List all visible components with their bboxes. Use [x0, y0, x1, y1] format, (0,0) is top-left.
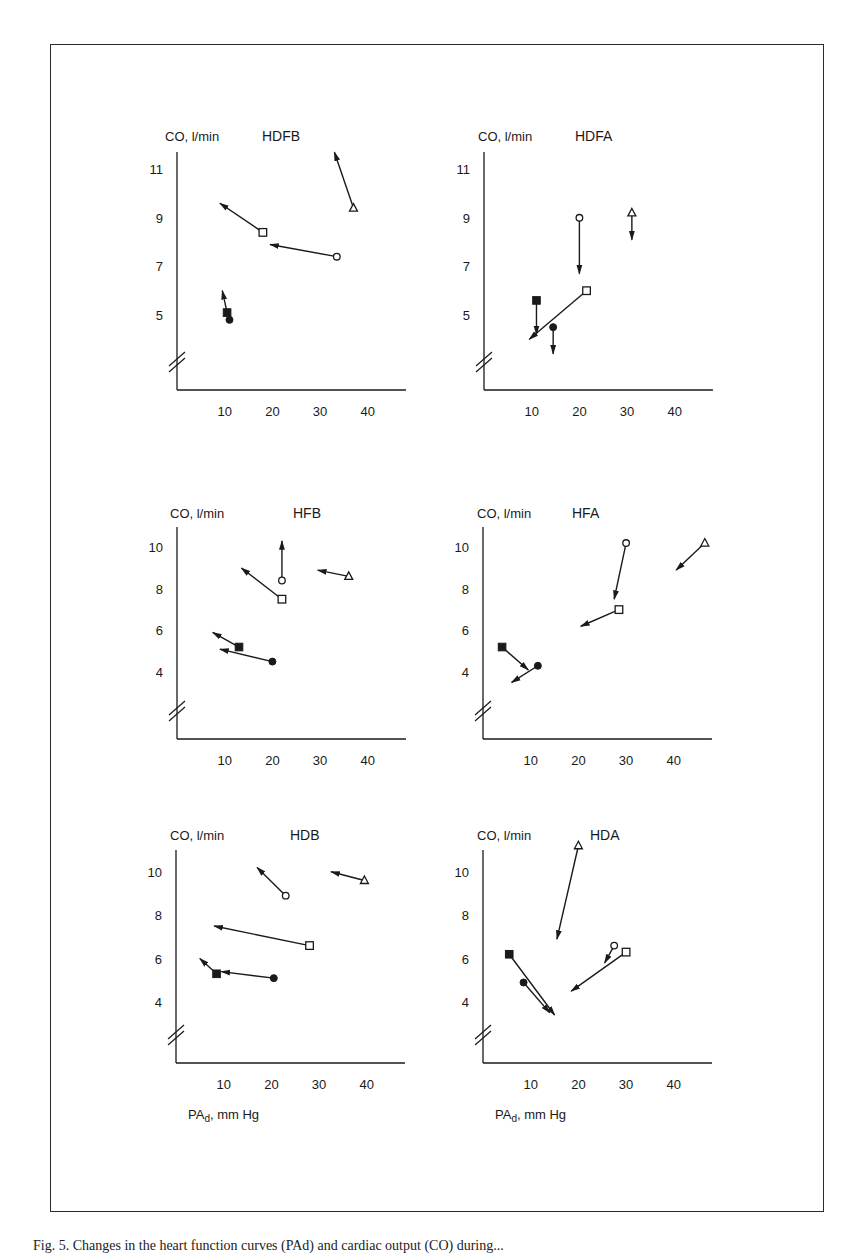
change-arrow: [512, 666, 538, 683]
filled-square-marker: [533, 297, 541, 305]
open-square-marker: [583, 287, 591, 295]
open-triangle-marker: [701, 539, 709, 547]
x-tick-label: 20: [265, 404, 279, 419]
panel-title: HDB: [290, 827, 320, 843]
panel-title: HFA: [572, 505, 600, 521]
open-triangle-marker: [574, 841, 582, 849]
y-tick-label: 11: [457, 162, 471, 177]
change-arrow: [241, 568, 282, 599]
change-arrow: [318, 570, 349, 576]
y-tick-label: 4: [462, 995, 469, 1010]
panel-title: HFB: [293, 505, 321, 521]
x-tick-label: 30: [313, 753, 327, 768]
y-axis-label: CO, l/min: [477, 828, 531, 843]
y-tick-label: 10: [148, 865, 162, 880]
x-tick-label: 10: [523, 1077, 537, 1092]
panel-hdfa: CO, l/minHDFA5791110203040: [457, 128, 713, 419]
panel-hdb: CO, l/minHDB4681010203040PAd, mm Hg: [148, 827, 405, 1124]
y-tick-label: 6: [155, 952, 162, 967]
panel-hda: CO, l/minHDA4681010203040PAd, mm Hg: [455, 827, 712, 1124]
x-tick-label: 20: [572, 404, 586, 419]
change-arrow: [334, 152, 353, 208]
change-arrow: [571, 952, 626, 991]
filled-circle-marker: [226, 316, 233, 323]
y-tick-label: 5: [463, 308, 470, 323]
change-arrow: [524, 982, 550, 1012]
y-tick-label: 4: [462, 665, 469, 680]
change-arrow: [331, 872, 364, 881]
open-circle-marker: [282, 892, 289, 899]
x-tick-label: 10: [523, 753, 537, 768]
y-tick-label: 8: [155, 908, 162, 923]
x-tick-label: 40: [361, 404, 375, 419]
x-tick-label: 20: [265, 753, 279, 768]
open-circle-marker: [623, 540, 630, 547]
y-tick-label: 10: [149, 540, 163, 555]
x-tick-label: 30: [619, 753, 633, 768]
y-axis-label: CO, l/min: [165, 129, 219, 144]
y-axis-label: CO, l/min: [170, 506, 224, 521]
change-arrow: [614, 543, 626, 599]
x-tick-label: 30: [620, 404, 634, 419]
filled-circle-marker: [269, 658, 276, 665]
x-tick-label: 10: [216, 1077, 230, 1092]
open-square-marker: [278, 595, 286, 603]
panel-title: HDFA: [575, 128, 613, 144]
change-arrow: [581, 610, 619, 627]
y-tick-label: 8: [462, 908, 469, 923]
y-axis-label: CO, l/min: [170, 828, 224, 843]
change-arrow: [557, 846, 578, 939]
x-tick-label: 10: [217, 753, 231, 768]
x-tick-label: 30: [312, 1077, 326, 1092]
filled-square-marker: [235, 643, 243, 651]
open-circle-marker: [279, 577, 286, 584]
x-axis-label: PAd, mm Hg: [188, 1107, 259, 1124]
y-tick-label: 8: [462, 582, 469, 597]
y-tick-label: 7: [463, 259, 470, 274]
x-tick-label: 40: [667, 1077, 681, 1092]
x-tick-label: 30: [619, 1077, 633, 1092]
x-tick-label: 20: [571, 753, 585, 768]
x-tick-label: 20: [571, 1077, 585, 1092]
x-tick-label: 40: [667, 753, 681, 768]
change-arrow: [676, 543, 705, 570]
y-tick-label: 10: [455, 540, 469, 555]
y-tick-label: 9: [156, 211, 163, 226]
panel-hfb: CO, l/minHFB4681010203040: [149, 505, 406, 768]
change-arrow: [214, 926, 309, 946]
y-axis-label: CO, l/min: [478, 129, 532, 144]
x-tick-label: 40: [361, 753, 375, 768]
open-square-marker: [259, 229, 267, 237]
change-arrow: [220, 649, 272, 661]
change-arrow: [220, 203, 263, 232]
open-square-marker: [615, 606, 623, 614]
open-square-marker: [306, 942, 314, 950]
open-square-marker: [622, 948, 630, 956]
y-tick-label: 6: [462, 623, 469, 638]
panel-hdfb: CO, l/minHDFB5791110203040: [150, 128, 406, 419]
filled-square-marker: [213, 970, 221, 978]
y-axis-label: CO, l/min: [477, 506, 531, 521]
panel-title: HDFB: [262, 128, 300, 144]
open-circle-marker: [576, 215, 583, 222]
filled-square-marker: [498, 643, 506, 651]
y-tick-label: 11: [150, 162, 164, 177]
x-tick-label: 10: [524, 404, 538, 419]
panel-title: HDA: [590, 827, 620, 843]
x-tick-label: 40: [668, 404, 682, 419]
panel-hfa: CO, l/minHFA4681010203040: [455, 505, 712, 768]
change-arrow: [270, 245, 337, 257]
open-circle-marker: [333, 253, 340, 260]
x-axis-label: PAd, mm Hg: [495, 1107, 566, 1124]
open-triangle-marker: [349, 204, 357, 212]
filled-square-marker: [223, 309, 231, 317]
figure-caption: Fig. 5. Changes in the heart function cu…: [33, 1238, 833, 1254]
open-triangle-marker: [628, 208, 636, 216]
change-arrow: [509, 954, 554, 1015]
open-circle-marker: [611, 942, 618, 949]
y-tick-label: 8: [156, 582, 163, 597]
y-tick-label: 10: [455, 865, 469, 880]
filled-circle-marker: [520, 979, 527, 986]
y-tick-label: 6: [462, 952, 469, 967]
